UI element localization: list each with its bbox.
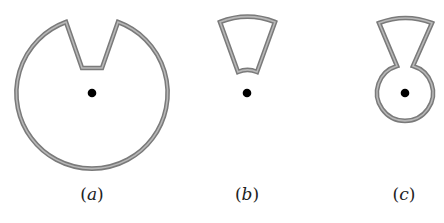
shape-b-wedge xyxy=(220,17,275,97)
label-paren-close: ) xyxy=(97,184,104,204)
label-paren-close: ) xyxy=(409,184,416,204)
label-paren-close: ) xyxy=(252,184,259,204)
label-letter-a: a xyxy=(87,184,97,204)
label-letter-c: c xyxy=(399,184,409,204)
pivot-dot-b xyxy=(243,89,252,98)
shape-a-notched-circle xyxy=(16,22,167,169)
shape-c-keyhole xyxy=(377,18,433,121)
pivot-dot-a xyxy=(88,89,97,98)
panel-label-a: (a) xyxy=(62,184,122,204)
label-paren-open: ( xyxy=(80,184,87,204)
pivot-dot-c xyxy=(401,89,410,98)
label-paren-open: ( xyxy=(235,184,242,204)
panel-label-b: (b) xyxy=(217,184,277,204)
label-letter-b: b xyxy=(242,184,253,204)
panel-label-c: (c) xyxy=(374,184,434,204)
